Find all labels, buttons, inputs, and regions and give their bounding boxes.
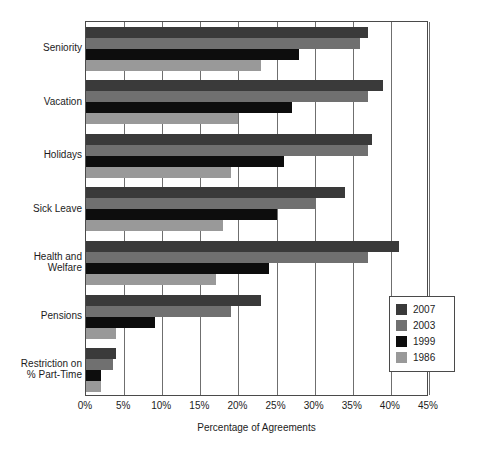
bar: [86, 295, 261, 306]
bar-row: [86, 167, 429, 178]
y-axis-tick-label: Vacation: [0, 96, 82, 108]
bar-row: [86, 198, 429, 209]
bar: [86, 145, 368, 156]
bar-chart: SeniorityVacationHolidaysSick LeaveHealt…: [0, 0, 486, 457]
bar: [86, 317, 155, 328]
legend-item[interactable]: 1986: [396, 350, 449, 365]
bar-row: [86, 295, 429, 306]
bar: [86, 209, 277, 220]
legend-item-label: 1986: [413, 352, 435, 363]
y-axis-tick-label: Health andWelfare: [0, 251, 82, 274]
legend-item-label: 2003: [413, 320, 435, 331]
bar: [86, 80, 383, 91]
bar-group: [86, 22, 427, 76]
bar-row: [86, 263, 429, 274]
bar: [86, 38, 360, 49]
y-axis-tick-label: Pensions: [0, 310, 82, 322]
bar-group: [86, 236, 427, 290]
bar-row: [86, 187, 429, 198]
bar-row: [86, 113, 429, 124]
bar: [86, 359, 113, 370]
y-axis-tick-label: Seniority: [0, 42, 82, 54]
bar: [86, 167, 231, 178]
bar-row: [86, 359, 429, 370]
x-axis-title: Percentage of Agreements: [85, 422, 428, 433]
bar: [86, 49, 299, 60]
legend-item-label: 2007: [413, 304, 435, 315]
bar: [86, 60, 261, 71]
bar: [86, 156, 284, 167]
bar: [86, 370, 101, 381]
bar-row: [86, 102, 429, 113]
x-axis-tick-label: 25%: [266, 400, 286, 411]
bar: [86, 134, 372, 145]
legend-item[interactable]: 1999: [396, 334, 449, 349]
legend-swatch-icon: [396, 304, 407, 315]
y-axis-tick-label: Sick Leave: [0, 203, 82, 215]
bar-group: [86, 343, 427, 397]
x-axis-tick-label: 35%: [342, 400, 362, 411]
bar-row: [86, 145, 429, 156]
bar-row: [86, 91, 429, 102]
x-axis-tick-label: 5%: [116, 400, 130, 411]
legend-swatch-icon: [396, 336, 407, 347]
bar: [86, 91, 368, 102]
y-axis-labels: SeniorityVacationHolidaysSick LeaveHealt…: [0, 21, 82, 396]
bar-group: [86, 76, 427, 130]
bar-row: [86, 27, 429, 38]
bar-row: [86, 370, 429, 381]
y-axis-tick-label: Holidays: [0, 149, 82, 161]
bar-row: [86, 317, 429, 328]
bar: [86, 187, 345, 198]
bar: [86, 113, 238, 124]
x-axis-tick-labels: 0%5%10%15%20%25%30%35%40%45%: [85, 400, 428, 416]
legend-item-label: 1999: [413, 336, 435, 347]
x-axis-tick-label: 45%: [418, 400, 438, 411]
bar: [86, 381, 101, 392]
legend-item[interactable]: 2003: [396, 318, 449, 333]
x-axis-tick-label: 0%: [78, 400, 92, 411]
bar-row: [86, 381, 429, 392]
chart-legend: 2007200319991986: [389, 296, 455, 372]
bar-row: [86, 38, 429, 49]
legend-swatch-icon: [396, 320, 407, 331]
x-axis-tick-label: 30%: [304, 400, 324, 411]
bar-row: [86, 134, 429, 145]
bar: [86, 198, 315, 209]
bar: [86, 27, 368, 38]
plot-area: [85, 21, 428, 396]
bar-row: [86, 274, 429, 285]
bar-group: [86, 129, 427, 183]
bar: [86, 102, 292, 113]
bar: [86, 241, 399, 252]
bar: [86, 328, 116, 339]
legend-swatch-icon: [396, 352, 407, 363]
bar: [86, 274, 216, 285]
bar-group: [86, 183, 427, 237]
bar: [86, 348, 116, 359]
bar: [86, 263, 269, 274]
bar: [86, 306, 231, 317]
bar: [86, 252, 368, 263]
bar-row: [86, 348, 429, 359]
x-axis-tick-label: 15%: [189, 400, 209, 411]
bar-row: [86, 60, 429, 71]
bar-row: [86, 306, 429, 317]
x-axis-tick-label: 20%: [227, 400, 247, 411]
bar: [86, 220, 223, 231]
bar-row: [86, 241, 429, 252]
legend-item[interactable]: 2007: [396, 302, 449, 317]
bar-row: [86, 328, 429, 339]
bar-group: [86, 290, 427, 344]
bar-row: [86, 156, 429, 167]
bar-row: [86, 80, 429, 91]
bar-row: [86, 49, 429, 60]
bar-row: [86, 220, 429, 231]
x-axis-tick-label: 40%: [380, 400, 400, 411]
y-axis-tick-label: Restriction on% Part-Time: [0, 358, 82, 381]
bar-row: [86, 252, 429, 263]
bar-row: [86, 209, 429, 220]
x-axis-tick-label: 10%: [151, 400, 171, 411]
